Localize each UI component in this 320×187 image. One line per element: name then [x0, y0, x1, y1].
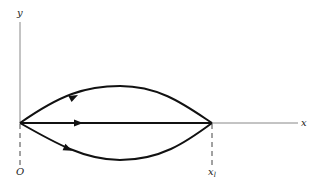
- xl-label-sub: l: [214, 171, 216, 179]
- y-axis-label: y: [17, 8, 23, 18]
- diagram-svg: [0, 0, 320, 187]
- straight-arrow-icon: [74, 120, 83, 127]
- upper-path: [20, 86, 212, 123]
- x-axis-label: x: [301, 118, 307, 128]
- diagram-canvas: y x O xl: [0, 0, 320, 187]
- lower-path: [20, 123, 212, 160]
- origin-label: O: [16, 167, 24, 177]
- xl-label: xl: [208, 167, 216, 179]
